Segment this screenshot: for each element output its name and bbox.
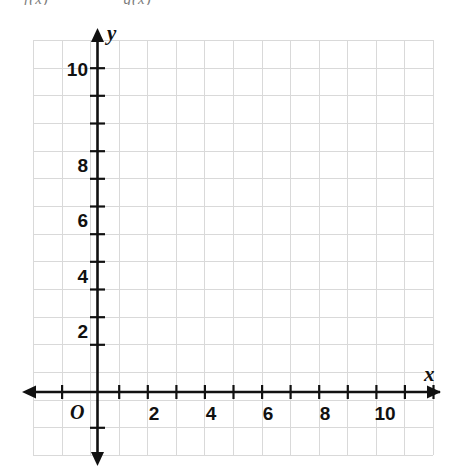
x-tick-label-6: 6 <box>263 403 274 424</box>
x-tick-label-8: 8 <box>320 403 331 424</box>
x-tick-label-10: 10 <box>374 403 395 424</box>
x-tick-label-4: 4 <box>206 403 217 424</box>
x-axis <box>22 385 441 399</box>
x-axis-label: x <box>423 362 435 386</box>
clipped-header-text: f(x) g(x) <box>0 0 464 5</box>
origin-label: O <box>70 401 84 423</box>
y-axis-arrow-down <box>91 452 104 466</box>
y-tick-label-6: 6 <box>77 210 88 231</box>
clipped-header-fragment-left: f(x) <box>24 0 49 5</box>
coordinate-plane-figure: f(x) g(x) <box>0 0 464 466</box>
clipped-header-fragment-right: g(x) <box>124 0 152 5</box>
y-axis-arrow-up <box>91 28 104 42</box>
cartesian-grid-svg: y x O 2 4 6 8 10 2 4 6 8 10 <box>0 0 464 466</box>
y-tick-label-2: 2 <box>77 321 88 342</box>
x-axis-arrow-left <box>22 386 36 399</box>
y-tick-label-4: 4 <box>77 266 88 287</box>
x-tick-label-2: 2 <box>149 403 160 424</box>
y-axis-label: y <box>104 21 117 45</box>
y-tick-label-10: 10 <box>67 59 88 80</box>
y-tick-label-8: 8 <box>77 155 88 176</box>
